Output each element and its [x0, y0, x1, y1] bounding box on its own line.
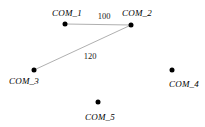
- node-label-com_1: COM_1: [52, 8, 82, 18]
- node-dot-com_2[interactable]: [129, 23, 134, 28]
- node-dot-com_5[interactable]: [96, 100, 101, 105]
- node-label-com_2: COM_2: [122, 8, 152, 18]
- node-label-com_3: COM_3: [9, 76, 39, 86]
- node-dot-com_3[interactable]: [32, 68, 37, 73]
- node-dot-com_4[interactable]: [170, 68, 175, 73]
- node-label-com_5: COM_5: [85, 112, 115, 122]
- node-dot-com_1[interactable]: [63, 22, 68, 27]
- node-label-com_4: COM_4: [169, 79, 199, 89]
- edge-weight-label-com_1-com_2: 100: [97, 12, 112, 21]
- network-diagram: COM_1COM_2COM_3COM_4COM_5100120: [0, 0, 205, 127]
- edge-com_2-com_3: [34, 25, 131, 70]
- edge-com_1-com_2: [65, 24, 131, 25]
- edge-weight-label-com_2-com_3: 120: [83, 52, 98, 61]
